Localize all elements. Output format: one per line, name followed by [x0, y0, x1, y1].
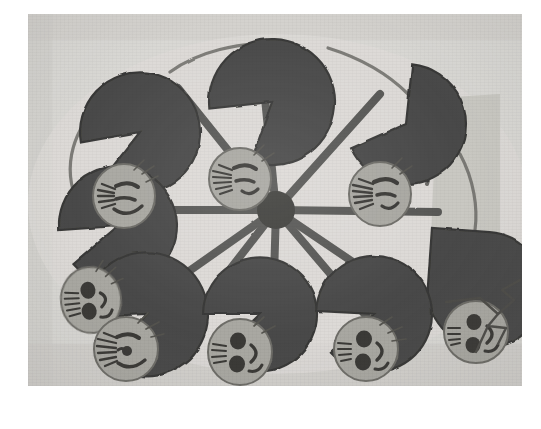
photograph-of-drawing [28, 14, 522, 386]
face-detached [444, 301, 508, 363]
drawing-canvas [28, 14, 522, 386]
screenshot-stage [0, 0, 541, 429]
